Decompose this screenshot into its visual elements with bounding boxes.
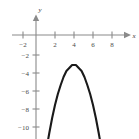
y-tick-label-minus4: −4 <box>22 70 30 78</box>
x-tick-label-4: 4 <box>72 41 76 49</box>
y-tick-labels: −2 −4 −6 −8 −10 <box>18 52 29 132</box>
parabola-figure: x −2 2 4 6 8 y <box>0 0 139 139</box>
x-tick-labels: −2 2 4 6 8 <box>19 41 114 49</box>
parabola-curve <box>46 65 101 139</box>
x-tick-label-8: 8 <box>110 41 114 49</box>
y-tick-label-minus6: −6 <box>22 88 30 96</box>
y-axis-label: y <box>38 6 43 14</box>
x-tick-label-minus2: −2 <box>19 41 27 49</box>
y-tick-label-minus2: −2 <box>22 52 30 60</box>
x-axis-label: x <box>132 32 137 40</box>
coordinate-plot: x −2 2 4 6 8 y <box>0 0 139 139</box>
y-tick-label-minus10: −10 <box>18 124 29 132</box>
y-tick-label-minus8: −8 <box>22 106 30 114</box>
x-tick-label-6: 6 <box>91 41 95 49</box>
x-axis-arrow <box>124 32 131 38</box>
y-axis-arrow <box>33 15 39 22</box>
x-tick-label-2: 2 <box>53 41 57 49</box>
